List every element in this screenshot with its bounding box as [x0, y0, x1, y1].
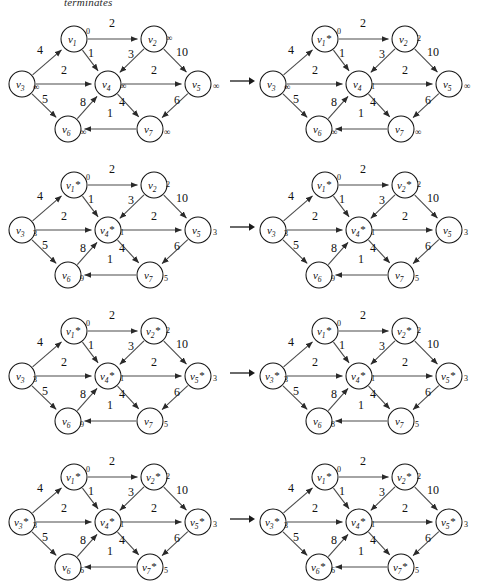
- node-star-v3: *: [274, 369, 280, 381]
- edge-weight-v3-v6: 5: [293, 92, 299, 106]
- node-distance-v5: ∞: [213, 81, 219, 91]
- node-subscript-v1: 1: [73, 39, 77, 48]
- node-distance-v5: 3: [464, 520, 468, 529]
- node-distance-v7: 5: [415, 274, 419, 283]
- node-distance-v6: 6: [80, 566, 84, 575]
- figure-caption: terminates: [64, 0, 214, 8]
- node-distance-v7: 5: [164, 420, 168, 429]
- edge-weight-v6-v4: 8: [331, 387, 337, 401]
- edge-weight-v4-v7: 4: [370, 533, 376, 547]
- edge-weight-v1-v4: 1: [88, 484, 94, 498]
- node-subscript-v7: 7: [400, 129, 404, 138]
- node-subscript-v5: 5: [448, 230, 452, 239]
- edge-weight-v1-v2: 2: [109, 162, 115, 176]
- node-distance-v3: ∞: [33, 82, 39, 92]
- edge-weight-v4-v5: 2: [151, 209, 157, 223]
- edge-weight-v1-v4: 1: [88, 338, 94, 352]
- edge-weight-v3-v1: 4: [37, 481, 43, 495]
- node-distance-v5: ∞: [464, 81, 470, 91]
- edge-weight-v4-v7: 4: [370, 241, 376, 255]
- node-distance-v7: 5: [415, 566, 419, 575]
- node-distance-v6: 8: [331, 420, 335, 429]
- node-star-v1: *: [75, 470, 81, 482]
- node-distance-v2: 2: [417, 180, 421, 189]
- node-distance-v3: 3: [284, 229, 288, 238]
- node-star-v2: *: [406, 470, 412, 482]
- node-subscript-v1: 1: [322, 477, 326, 486]
- edge-weight-v3-v1: 4: [37, 335, 43, 349]
- node-subscript-v7: 7: [400, 275, 404, 284]
- node-subscript-v7: 7: [398, 567, 402, 576]
- edge-weight-v5-v7: 6: [174, 239, 180, 253]
- edge-weight-v3-v6: 5: [293, 530, 299, 544]
- node-distance-v1: 0: [86, 173, 90, 182]
- edge-weight-v3-v4: 2: [312, 355, 318, 369]
- panel-4: 2413102258461v1*0v2*2v33v4*1v53v69v75: [253, 158, 476, 303]
- node-subscript-v4: 4: [105, 376, 109, 385]
- node-star-v7: *: [402, 560, 408, 572]
- edge-weight-v4-v5: 2: [151, 355, 157, 369]
- edge-weight-v6-v4: 8: [80, 95, 86, 109]
- edge-weight-v3-v1: 4: [37, 189, 43, 203]
- edge-weight-v2-v4: 3: [128, 485, 134, 499]
- node-subscript-v1: 1: [322, 185, 326, 194]
- node-star-v5: *: [199, 515, 205, 527]
- node-subscript-v7: 7: [400, 421, 404, 430]
- edge-weight-v3-v6: 5: [42, 530, 48, 544]
- node-subscript-v1: 1: [71, 185, 75, 194]
- edge-weight-v1-v2: 2: [360, 454, 366, 468]
- node-distance-v6: 9: [331, 274, 335, 283]
- figure-row-3: 2413102258461v1*0v2*2v33v4*1v5*3v69v7524…: [0, 304, 478, 449]
- node-subscript-v2: 2: [402, 331, 406, 340]
- node-star-v5: *: [450, 369, 456, 381]
- node-subscript-v4: 4: [105, 522, 109, 531]
- edge-weight-v4-v7: 4: [119, 95, 125, 109]
- node-subscript-v5: 5: [197, 230, 201, 239]
- edge-weight-v7-v6: 1: [107, 398, 113, 412]
- node-subscript-v7: 7: [149, 129, 153, 138]
- edge-weight-v3-v4: 2: [312, 209, 318, 223]
- node-distance-v5: 3: [213, 520, 217, 529]
- node-star-v4: *: [360, 223, 366, 235]
- node-distance-v6: ∞: [331, 127, 337, 137]
- node-distance-v1: 0: [86, 465, 90, 474]
- node-distance-v2: 2: [166, 472, 170, 481]
- edge-weight-v2-v5: 10: [427, 337, 439, 351]
- edge-weight-v7-v6: 1: [358, 252, 364, 266]
- edge-weight-v1-v2: 2: [360, 308, 366, 322]
- edge-weight-v3-v4: 2: [61, 501, 67, 515]
- node-subscript-v1: 1: [322, 331, 326, 340]
- node-distance-v3: 3: [284, 521, 288, 530]
- node-subscript-v3: 3: [269, 376, 274, 385]
- panel-7: 2413102258461v1*0v2*2v3*3v4*1v5*3v66v7*5: [2, 450, 225, 583]
- node-distance-v7: 5: [415, 420, 419, 429]
- node-subscript-v4: 4: [358, 84, 362, 93]
- node-subscript-v4: 4: [107, 84, 111, 93]
- edge-weight-v2-v4: 3: [128, 339, 134, 353]
- edge-weight-v3-v6: 5: [42, 384, 48, 398]
- edge-weight-v4-v7: 4: [119, 533, 125, 547]
- node-star-v4: *: [109, 369, 115, 381]
- node-subscript-v5: 5: [446, 522, 450, 531]
- node-subscript-v5: 5: [448, 84, 452, 93]
- edge-weight-v4-v7: 4: [119, 387, 125, 401]
- node-distance-v4: ∞: [120, 81, 126, 91]
- node-distance-v6: 9: [80, 274, 84, 283]
- edge-weight-v5-v7: 6: [174, 385, 180, 399]
- node-distance-v6: 9: [80, 420, 84, 429]
- edge-weight-v7-v6: 1: [358, 106, 364, 120]
- node-distance-v7: ∞: [415, 127, 421, 137]
- node-distance-v2: 2: [417, 472, 421, 481]
- node-distance-v2: ∞: [166, 33, 172, 43]
- node-distance-v4: 1: [371, 228, 375, 237]
- edge-weight-v7-v6: 1: [358, 544, 364, 558]
- edge-weight-v2-v4: 3: [128, 47, 134, 61]
- edge-weight-v2-v4: 3: [128, 193, 134, 207]
- edge-weight-v3-v4: 2: [61, 63, 67, 77]
- edge-weight-v5-v7: 6: [174, 93, 180, 107]
- edge-weight-v6-v4: 8: [80, 241, 86, 255]
- node-distance-v4: 1: [371, 82, 375, 91]
- node-distance-v2: 2: [417, 34, 421, 43]
- node-star-v2: *: [155, 324, 161, 336]
- panel-2: 2413102258461v1*0v22v3∞v41v5∞v6∞v7∞: [253, 12, 476, 157]
